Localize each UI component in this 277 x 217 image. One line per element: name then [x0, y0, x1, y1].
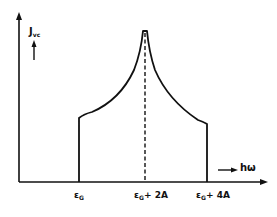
tick-eg-4a: εG+ 4A	[196, 190, 230, 201]
y-axis-label: Jvc	[29, 26, 40, 38]
tick-eg: εG	[74, 190, 84, 201]
tick-eg-4a-suffix: + 4A	[206, 190, 230, 200]
y-axis-arrow-icon	[16, 12, 22, 20]
hw-arrow-icon	[231, 168, 238, 173]
jvc-arrow-icon	[32, 40, 37, 47]
tick-eg-sub: G	[79, 194, 84, 201]
tick-eg-2a: εG+ 2A	[134, 190, 168, 201]
tick-eg-2a-suffix: + 2A	[144, 190, 168, 200]
y-axis-label-sub: vc	[33, 31, 40, 38]
diagram-root: Jvc hω εG εG+ 2A εG+ 4A	[0, 0, 277, 217]
x-axis-label: hω	[240, 162, 256, 173]
x-axis-arrow-icon	[260, 179, 268, 185]
jvc-curve	[79, 31, 207, 182]
plot-svg	[0, 0, 277, 217]
